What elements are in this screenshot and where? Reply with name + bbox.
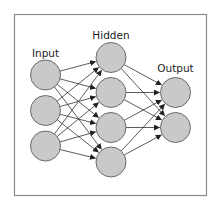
connection-arrow bbox=[57, 103, 98, 137]
connection-arrow bbox=[124, 135, 161, 155]
hidden-node bbox=[96, 147, 126, 177]
connection-arrow bbox=[55, 87, 102, 149]
connection-arrow bbox=[57, 120, 98, 152]
hidden-layer-label: Hidden bbox=[92, 29, 129, 41]
input-layer-label: Input bbox=[32, 47, 59, 59]
hidden-node bbox=[96, 43, 126, 73]
neural-network-diagram: Input Hidden Output bbox=[0, 0, 217, 205]
connection-arrow bbox=[124, 65, 161, 85]
connection-arrow bbox=[124, 100, 161, 120]
connection-arrow bbox=[124, 100, 161, 120]
output-layer-label: Output bbox=[157, 62, 193, 74]
connections bbox=[54, 62, 164, 159]
connection-arrow bbox=[60, 79, 96, 88]
connection-arrow bbox=[57, 84, 98, 117]
connection-arrow bbox=[60, 62, 96, 71]
input-node bbox=[31, 131, 61, 161]
connection-arrow bbox=[54, 70, 101, 134]
output-node bbox=[161, 113, 191, 143]
input-node bbox=[31, 60, 61, 90]
output-node bbox=[161, 78, 191, 108]
input-node bbox=[31, 96, 61, 126]
hidden-node bbox=[96, 78, 126, 108]
hidden-node bbox=[96, 113, 126, 143]
connection-arrow bbox=[60, 150, 95, 159]
connection-arrow bbox=[60, 132, 96, 142]
connection-arrow bbox=[57, 68, 98, 102]
